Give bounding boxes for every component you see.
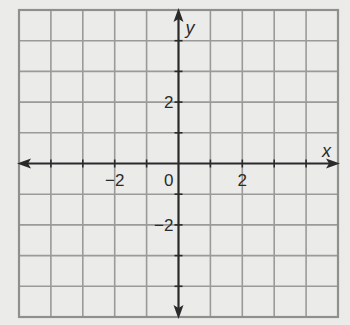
y-tick-label: −2 xyxy=(154,216,173,235)
x-axis-label: x xyxy=(321,141,332,161)
coordinate-plane: x y 0 −222−2 xyxy=(0,0,350,325)
x-tick-label: −2 xyxy=(105,171,124,190)
axes xyxy=(17,8,340,319)
y-tick-label: 2 xyxy=(164,93,173,112)
origin-label: 0 xyxy=(164,171,173,190)
x-tick-label: 2 xyxy=(238,171,247,190)
labels: x y 0 −222−2 xyxy=(105,18,332,235)
y-axis-label: y xyxy=(184,18,196,38)
